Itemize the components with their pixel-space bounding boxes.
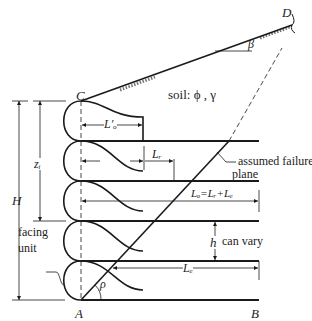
failure-plane-label-2: plane [232,168,258,180]
le-label: Lₑ [183,262,193,274]
h-spacing-label: h [210,236,217,249]
failure-plane-extension [229,48,282,141]
can-vary-label: can vary [222,235,263,247]
rho-label: ρ [100,278,106,290]
facing-label-1: facing [18,226,48,238]
failure-plane-label-1: assumed failure [238,155,312,167]
wrapped-face-wall-diagram: C D A B β ρ soil: ϕ , γ H zᵢ L′ₒ Lᵣ Lₒ=L… [0,0,312,321]
point-b-label: B [251,307,259,320]
zi-label: zᵢ [34,158,41,170]
lo-prime-label: L′ₒ [104,118,117,130]
beta-label: β [248,38,254,50]
soil-label: soil: ϕ , γ [168,88,216,101]
lr-label: Lᵣ [152,148,162,160]
point-d-label: D [282,6,291,19]
facing-label-2: unit [18,242,37,254]
l-total-label: Lₒ=Lᵣ+Lₑ [191,188,233,199]
h-total-label: H [12,194,21,207]
point-c-label: C [76,89,85,102]
point-a-label: A [75,307,83,320]
